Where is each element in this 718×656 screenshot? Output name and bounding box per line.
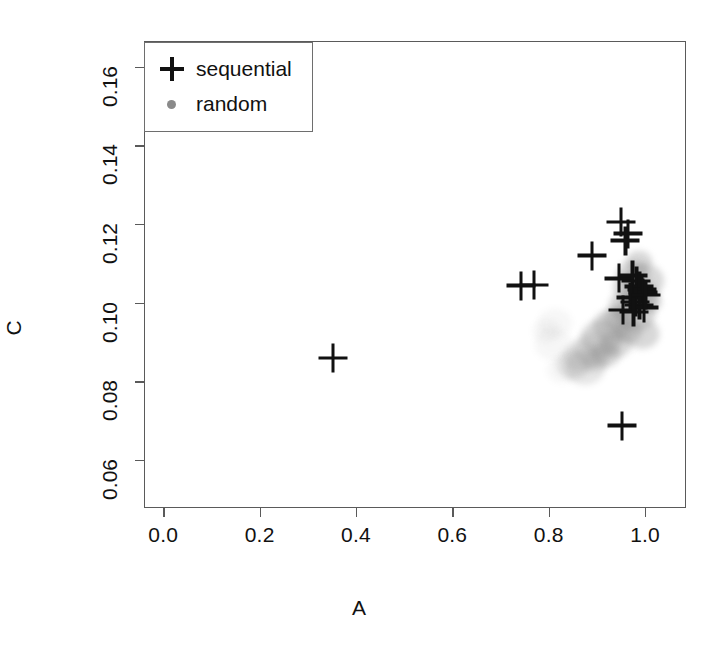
sequential-point [520, 270, 549, 299]
x-axis-tick [163, 508, 164, 517]
sequential-point [578, 241, 607, 270]
random-point [547, 357, 577, 383]
dot-marker-icon [157, 89, 187, 119]
plus-marker-icon [157, 54, 187, 84]
x-axis-tick [452, 508, 453, 517]
x-axis-tick [260, 508, 261, 517]
chart-legend: sequential random [144, 42, 313, 132]
sequential-point [619, 298, 648, 327]
y-axis-title: C [2, 320, 26, 335]
legend-label-random: random [196, 92, 267, 116]
sequential-point [607, 411, 636, 440]
y-axis-tick [135, 303, 144, 304]
random-point [538, 308, 572, 337]
y-axis-tick [135, 145, 144, 146]
sequential-point [318, 343, 347, 372]
x-axis-tick-label: 1.0 [610, 523, 680, 547]
x-axis-tick-label: 0.4 [321, 523, 391, 547]
sequential-point [611, 226, 640, 255]
y-axis-tick-label: 0.16 [98, 66, 122, 176]
y-axis-tick [135, 381, 144, 382]
x-axis-tick [549, 508, 550, 517]
y-axis-tick [135, 224, 144, 225]
legend-item-sequential: sequential [157, 52, 292, 86]
x-axis-tick [645, 508, 646, 517]
scatter-plot-figure: 0.00.20.40.60.81.00.060.080.100.120.140.… [0, 0, 718, 656]
x-axis-tick-label: 0.2 [225, 523, 295, 547]
figure-title [0, 0, 718, 3]
legend-item-random: random [157, 87, 267, 121]
x-axis-title: A [0, 596, 718, 620]
x-axis-tick [356, 508, 357, 517]
y-axis-tick [135, 67, 144, 68]
legend-label-sequential: sequential [196, 57, 292, 81]
y-axis-tick [135, 460, 144, 461]
x-axis-tick-label: 0.0 [128, 523, 198, 547]
x-axis-tick-label: 0.8 [514, 523, 584, 547]
x-axis-tick-label: 0.6 [417, 523, 487, 547]
